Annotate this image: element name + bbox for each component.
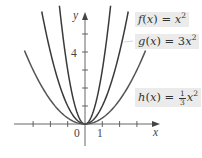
origin-label: 0 — [74, 127, 80, 139]
x-tick-label-1: 1 — [97, 127, 103, 139]
y-tick-label-4: 4 — [71, 47, 77, 59]
y-axis — [82, 12, 88, 146]
equals: = — [158, 12, 175, 26]
label-g-exp: 2 — [192, 33, 197, 42]
y-axis-label: y — [72, 9, 79, 22]
x-axis-label: x — [152, 126, 159, 138]
y-axis-arrow-icon — [82, 12, 88, 20]
label-h: h(x) = 13x2 — [135, 88, 201, 107]
label-h-exp: 2 — [193, 89, 198, 98]
g-label-leader — [124, 41, 133, 42]
equals: = — [161, 34, 178, 48]
equals: = — [161, 90, 178, 104]
label-f-exp: 2 — [181, 11, 186, 20]
frac-den: 3 — [179, 99, 186, 107]
label-g: g(x) = 3x2 — [135, 34, 199, 49]
label-f: f(x) = x2 — [135, 12, 189, 27]
label-h-fraction: 13 — [179, 90, 186, 107]
